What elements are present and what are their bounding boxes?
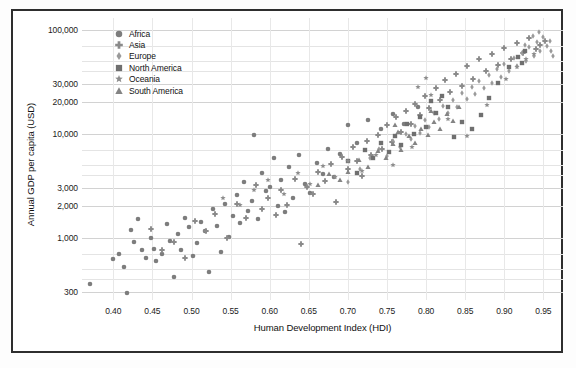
data-point-africa: [87, 281, 93, 287]
x-tick-label: 0.80: [418, 306, 434, 316]
data-point-south-america: [437, 127, 443, 133]
data-point-africa: [139, 247, 145, 253]
data-point-asia: [389, 139, 395, 145]
data-point-asia: [350, 144, 356, 150]
data-point-europe: [530, 33, 536, 39]
data-point-africa: [194, 241, 200, 247]
y-tick-label: 3,000: [57, 183, 78, 193]
data-point-europe: [534, 39, 540, 45]
data-point-africa: [132, 239, 138, 245]
x-tick-label: 0.45: [144, 306, 160, 316]
x-tick-label: 0.75: [379, 306, 395, 316]
legend-item-label: Africa: [129, 29, 150, 39]
data-point-africa: [175, 231, 181, 237]
data-point-europe: [436, 116, 442, 122]
y-gridline: [82, 206, 563, 207]
data-point-south-america: [450, 118, 456, 124]
x-gridline: [270, 18, 271, 300]
data-point-south-america: [431, 119, 437, 125]
data-point-asia: [433, 85, 439, 91]
y-gridline: [82, 165, 563, 166]
data-point-asia: [417, 113, 423, 119]
x-axis-tick-labels: 0.400.450.500.550.600.650.700.750.800.85…: [82, 306, 563, 320]
y-gridline: [82, 102, 563, 103]
data-point-africa: [365, 117, 371, 123]
data-point-europe: [538, 48, 544, 54]
data-point-europe: [455, 104, 461, 110]
data-point-oceania: [359, 168, 365, 174]
data-point-africa: [198, 219, 204, 225]
data-point-africa: [136, 216, 142, 222]
diamond-icon: [112, 52, 125, 60]
data-point-north-america: [522, 49, 528, 55]
data-point-asia: [298, 242, 304, 248]
data-point-north-america: [378, 140, 384, 146]
legend-item-south-america[interactable]: South America: [112, 85, 183, 96]
data-point-north-america: [439, 93, 445, 99]
data-point-asia: [489, 52, 495, 58]
legend-item-label: South America: [129, 86, 183, 96]
data-point-europe: [441, 103, 447, 109]
data-point-north-america: [417, 114, 423, 120]
data-point-africa: [164, 221, 170, 227]
data-point-africa: [241, 180, 247, 186]
data-point-europe: [519, 50, 525, 56]
data-point-south-america: [419, 126, 425, 132]
data-point-africa: [245, 208, 251, 214]
data-point-south-america: [337, 177, 343, 183]
data-point-asia: [203, 228, 209, 234]
legend-item-north-america[interactable]: North America: [112, 62, 183, 73]
data-point-south-america: [391, 141, 397, 147]
x-gridline: [387, 18, 388, 300]
data-point-europe: [412, 123, 418, 129]
data-point-north-america: [506, 64, 512, 70]
data-point-europe: [391, 138, 397, 144]
data-point-africa: [129, 227, 135, 233]
y-gridline: [82, 269, 563, 270]
data-point-asia: [514, 40, 520, 46]
data-point-europe: [549, 49, 555, 55]
data-point-africa: [179, 247, 185, 253]
data-point-asia: [520, 50, 526, 56]
data-point-asia: [273, 212, 279, 218]
y-gridline: [82, 175, 563, 176]
y-tick-label: 10,000: [53, 129, 78, 139]
data-point-africa: [290, 195, 296, 201]
data-point-oceania: [428, 92, 434, 98]
data-point-asia: [172, 239, 178, 245]
data-point-asia: [394, 114, 400, 120]
x-tick-label: 0.65: [301, 306, 317, 316]
data-point-africa: [182, 215, 188, 221]
y-gridline: [82, 134, 563, 135]
data-point-africa: [401, 121, 407, 127]
y-tick-label: 1,000: [57, 233, 78, 243]
y-tick-label: 20,000: [53, 97, 78, 107]
data-point-asia: [408, 121, 414, 127]
data-point-africa: [202, 228, 208, 234]
legend-item-europe[interactable]: Europe: [112, 51, 183, 62]
data-point-north-america: [469, 127, 475, 133]
square-icon: [112, 64, 125, 72]
x-gridline: [192, 18, 193, 300]
data-point-north-america: [452, 135, 458, 141]
legend-item-oceania[interactable]: Oceania: [112, 74, 183, 85]
star-icon: [112, 75, 125, 83]
data-point-asia: [193, 218, 199, 224]
data-point-africa: [255, 216, 261, 222]
data-point-asia: [427, 106, 433, 112]
x-tick-label: 0.85: [457, 306, 473, 316]
data-point-europe: [550, 53, 556, 59]
data-point-africa: [215, 223, 221, 229]
triangle-icon: [112, 87, 125, 95]
data-point-south-america: [428, 108, 434, 114]
legend-item-africa[interactable]: Africa: [112, 28, 183, 39]
data-point-south-america: [444, 111, 450, 117]
circle-icon: [112, 30, 125, 38]
y-axis-title: Annual GDP per capita (USD): [25, 65, 36, 265]
data-point-europe: [486, 73, 492, 79]
data-point-europe: [498, 74, 504, 80]
y-tick-label: 300: [64, 287, 78, 297]
data-point-asia: [212, 211, 218, 217]
legend-item-asia[interactable]: Asia: [112, 39, 183, 50]
data-point-africa: [416, 104, 422, 110]
